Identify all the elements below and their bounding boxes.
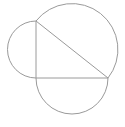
right-triangle-semicircles-diagram [0, 0, 125, 127]
semicircle-ab [7, 21, 36, 78]
triangle-side-ac [36, 21, 108, 78]
semicircle-bc [36, 78, 108, 114]
semicircle-ac [36, 4, 118, 78]
